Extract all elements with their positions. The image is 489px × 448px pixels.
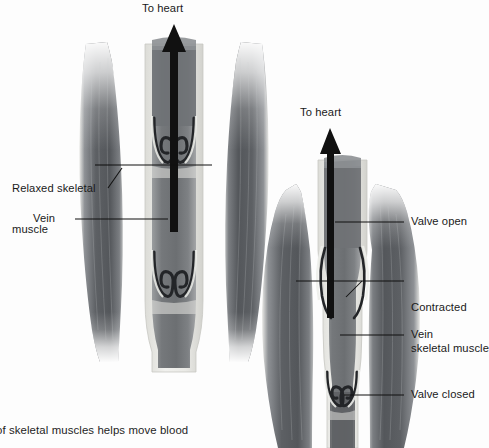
- label-vein-left: Vein: [33, 212, 55, 226]
- figure-caption: of skeletal muscles helps move blood: [0, 424, 188, 436]
- label-contracted-skeletal-muscle-line2: skeletal muscle: [411, 342, 489, 356]
- label-to-heart-relaxed-wrap: Relaxed skeletal muscle: [12, 155, 96, 264]
- label-to-heart-contracted: To heart: [300, 106, 341, 120]
- label-valve-closed: Valve closed: [411, 388, 475, 402]
- label-vein-right: Vein: [411, 328, 433, 342]
- label-valve-open: Valve open: [411, 215, 467, 229]
- label-contracted-skeletal-muscle-line1: Contracted: [411, 301, 489, 315]
- label-to-heart-relaxed: To heart: [142, 2, 183, 16]
- muscle-contracted-left: [262, 184, 313, 448]
- panel-contracted: [262, 128, 420, 448]
- panel-relaxed: [75, 24, 269, 372]
- label-relaxed-skeletal-muscle-line1: Relaxed skeletal: [12, 182, 96, 196]
